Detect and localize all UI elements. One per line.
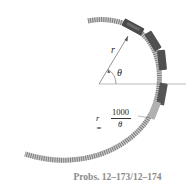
equation-numerator: 1000 [112,107,129,117]
figure-caption: Probs. 12–173/12–174 [0,172,195,182]
track-ties [25,20,160,161]
spiral-track-diagram [0,0,195,192]
equation-denominator: θ [118,119,122,129]
angle-label: θ [117,67,122,78]
track-bed [25,20,160,161]
equation-lhs: r = [96,113,102,133]
figure: r θ r = 1000 θ Probs. 12–173/12–174 [0,0,195,192]
radius-label: r [111,44,115,55]
train-car-faded [148,101,161,120]
